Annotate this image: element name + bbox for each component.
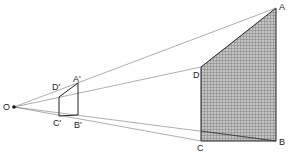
- large-quadrilateral-abcd: [201, 8, 276, 141]
- label-a-prime: A': [73, 74, 81, 84]
- label-b-prime: B': [74, 120, 82, 130]
- label-o: O: [3, 102, 10, 112]
- label-c-prime: C': [53, 118, 61, 128]
- label-d-prime: D': [52, 82, 60, 92]
- ray-o-c: [14, 107, 201, 141]
- label-b: B: [279, 137, 285, 147]
- label-c: C: [197, 143, 204, 152]
- label-d: D: [193, 70, 200, 80]
- small-quadrilateral-abcd-prime: [59, 83, 78, 116]
- projection-diagram: O A B C D A' B' C' D': [0, 0, 290, 152]
- label-a: A: [279, 2, 285, 12]
- center-point-o: [12, 105, 16, 109]
- ray-o-d: [14, 67, 201, 107]
